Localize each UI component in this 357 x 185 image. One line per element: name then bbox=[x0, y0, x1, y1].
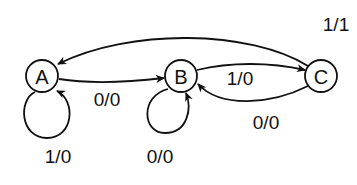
state-node-a: A bbox=[26, 60, 58, 92]
edge-label-a-to-b: 0/0 bbox=[94, 89, 120, 110]
state-label-a: A bbox=[35, 66, 49, 88]
edge-label-c-to-b: 0/0 bbox=[253, 112, 279, 133]
edge-a-to-b bbox=[59, 78, 164, 82]
edge-b-loop bbox=[147, 89, 188, 133]
state-node-c: C bbox=[305, 60, 337, 92]
edge-label-b-to-c: 1/0 bbox=[227, 68, 253, 89]
edge-label-a-loop: 1/0 bbox=[45, 146, 71, 167]
state-label-c: C bbox=[314, 66, 328, 88]
edge-label-c-to-a: 1/1 bbox=[323, 14, 349, 35]
edge-a-loop bbox=[24, 91, 69, 138]
state-diagram: 1/1 0/0 1/0 0/0 1/0 0/0 A B C bbox=[0, 0, 357, 185]
state-node-b: B bbox=[165, 60, 197, 92]
edge-label-b-loop: 0/0 bbox=[147, 146, 173, 167]
state-label-b: B bbox=[174, 66, 187, 88]
